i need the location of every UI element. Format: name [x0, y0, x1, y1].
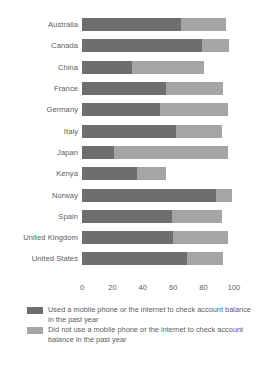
chart-row: United Kingdom — [0, 227, 260, 248]
chart-row: Germany — [0, 99, 260, 120]
bar-track — [82, 146, 234, 159]
chart-row: Spain — [0, 206, 260, 227]
bar-segment-used — [82, 167, 137, 180]
bar-segment-used — [82, 146, 114, 159]
bar-segment-used — [82, 82, 166, 95]
stacked-bar-chart: AustraliaCanadaChinaFranceGermanyItalyJa… — [0, 0, 260, 369]
bar-segment-not-used — [160, 103, 228, 116]
x-axis-tick: 0 — [80, 283, 84, 293]
bar-track — [82, 210, 234, 223]
bar-track — [82, 103, 234, 116]
chart-plot-area: AustraliaCanadaChinaFranceGermanyItalyJa… — [0, 14, 260, 270]
bar-segment-used — [82, 252, 187, 265]
x-axis-tick: 40 — [139, 283, 147, 293]
bar-track — [82, 39, 234, 52]
chart-row: Kenya — [0, 163, 260, 184]
bar-segment-not-used — [114, 146, 228, 159]
legend-label: Did not use a mobile phone or the intern… — [48, 325, 255, 344]
category-label: Italy — [0, 127, 82, 136]
x-axis-tick: 60 — [169, 283, 177, 293]
chart-row: United States — [0, 248, 260, 269]
bar-segment-used — [82, 231, 173, 244]
category-label: Norway — [0, 191, 82, 200]
category-label: Germany — [0, 105, 82, 114]
chart-row: China — [0, 57, 260, 78]
bar-segment-not-used — [202, 39, 229, 52]
bar-track — [82, 18, 234, 31]
bar-segment-used — [82, 103, 160, 116]
bar-track — [82, 61, 234, 74]
legend-swatch-notused-icon — [27, 327, 43, 334]
category-label: United Kingdom — [0, 233, 82, 242]
bar-segment-not-used — [216, 189, 233, 202]
legend-item: Did not use a mobile phone or the intern… — [27, 325, 255, 344]
bar-segment-used — [82, 125, 176, 138]
bar-segment-not-used — [172, 210, 222, 223]
category-label: Japan — [0, 148, 82, 157]
bar-segment-not-used — [166, 82, 224, 95]
chart-row: Canada — [0, 35, 260, 56]
legend-label: Used a mobile phone or the internet to c… — [48, 305, 255, 324]
bar-segment-used — [82, 189, 216, 202]
x-axis-tick: 80 — [199, 283, 207, 293]
bar-segment-not-used — [137, 167, 166, 180]
category-label: Canada — [0, 41, 82, 50]
bar-track — [82, 231, 234, 244]
chart-legend: Used a mobile phone or the internet to c… — [27, 305, 255, 345]
bar-segment-used — [82, 18, 181, 31]
category-label: France — [0, 84, 82, 93]
chart-row: Norway — [0, 184, 260, 205]
x-axis: 020406080100 — [82, 283, 234, 297]
chart-row: Italy — [0, 120, 260, 141]
x-axis-tick: 100 — [228, 283, 241, 293]
category-label: Spain — [0, 212, 82, 221]
legend-swatch-used-icon — [27, 307, 43, 314]
bar-track — [82, 252, 234, 265]
bar-segment-used — [82, 39, 202, 52]
chart-row: Japan — [0, 142, 260, 163]
bar-segment-not-used — [187, 252, 223, 265]
bar-segment-used — [82, 61, 132, 74]
bar-segment-not-used — [173, 231, 228, 244]
chart-row: France — [0, 78, 260, 99]
bar-segment-not-used — [176, 125, 222, 138]
category-label: China — [0, 63, 82, 72]
bar-track — [82, 125, 234, 138]
legend-item: Used a mobile phone or the internet to c… — [27, 305, 255, 324]
category-label: Australia — [0, 20, 82, 29]
bar-segment-not-used — [181, 18, 227, 31]
bar-segment-not-used — [132, 61, 203, 74]
bar-track — [82, 189, 234, 202]
bar-track — [82, 167, 234, 180]
category-label: Kenya — [0, 169, 82, 178]
chart-row: Australia — [0, 14, 260, 35]
bar-track — [82, 82, 234, 95]
category-label: United States — [0, 254, 82, 263]
bar-segment-used — [82, 210, 172, 223]
x-axis-tick: 20 — [108, 283, 116, 293]
